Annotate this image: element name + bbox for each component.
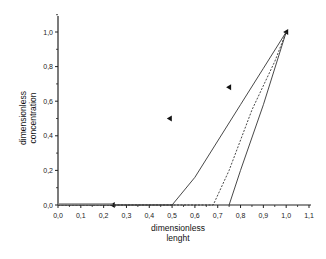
x-tick-label: 0,4 xyxy=(144,212,154,219)
x-tick-label: 0,7 xyxy=(213,212,223,219)
y-tick-label: 0,6 xyxy=(43,98,53,105)
x-tick-label: 0,6 xyxy=(190,212,200,219)
series-line xyxy=(58,32,286,205)
x-tick-label: 0,9 xyxy=(258,212,268,219)
x-tick-label: 0,1 xyxy=(76,212,86,219)
data-marker xyxy=(226,84,231,90)
x-tick-label: 0,3 xyxy=(122,212,132,219)
series-line xyxy=(58,32,286,205)
chart: 0,00,10,20,30,40,50,60,70,80,91,01,10,00… xyxy=(0,0,326,259)
y-tick-label: 0,2 xyxy=(43,167,53,174)
x-axis-label: dimensionlesslenght xyxy=(151,223,205,243)
y-tick-label: 1,0 xyxy=(43,29,53,36)
y-tick-label: 0,8 xyxy=(43,63,53,70)
data-marker xyxy=(167,116,172,122)
y-tick-label: 0,0 xyxy=(43,202,53,209)
series-line xyxy=(229,32,286,205)
x-tick-label: 1,0 xyxy=(281,212,291,219)
y-axis-label: dimensionlessconcentration xyxy=(18,91,38,145)
y-tick-label: 0,4 xyxy=(43,132,53,139)
x-tick-label: 0,5 xyxy=(167,212,177,219)
x-tick-label: 0,2 xyxy=(99,212,109,219)
x-tick-label: 0,8 xyxy=(236,212,246,219)
x-tick-label: 1,1 xyxy=(304,212,314,219)
x-tick-label: 0,0 xyxy=(53,212,63,219)
